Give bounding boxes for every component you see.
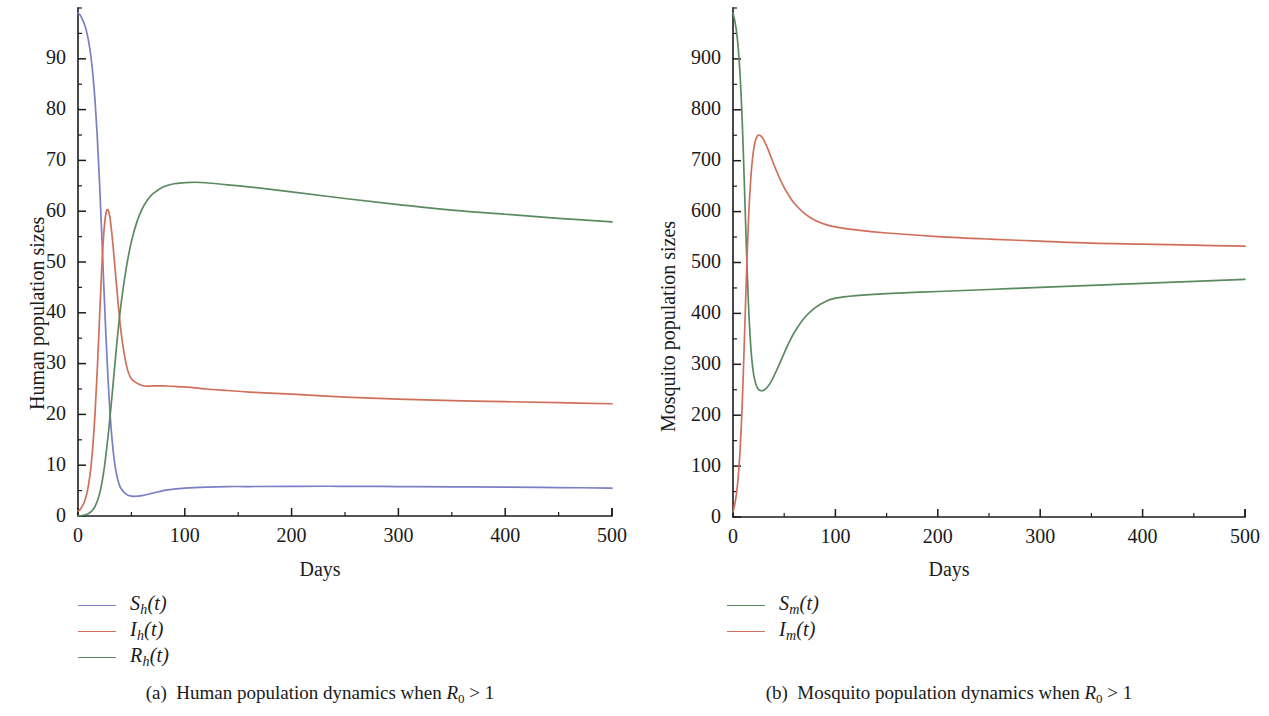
legend-item[interactable]: Sh(t)	[78, 592, 169, 618]
caption-text: Human population dynamics when	[176, 682, 446, 703]
legend-color-swatch	[78, 657, 116, 658]
plot-area-mosquito: 0100200300400500010020030040050060070080…	[629, 0, 1269, 560]
legend-color-swatch	[78, 605, 116, 606]
y-tick-label: 700	[691, 148, 721, 170]
curve-r-ht	[78, 182, 612, 516]
y-tick-label: 500	[691, 250, 721, 272]
legend-label: Sm(t)	[779, 592, 819, 618]
legend-label: Sh(t)	[130, 592, 167, 618]
plot-area-human: 01002003004005000102030405060708090	[0, 0, 640, 560]
y-tick-label: 40	[46, 300, 66, 322]
x-tick-label: 0	[728, 525, 738, 547]
x-axis-label-human: Days	[0, 558, 640, 581]
caption-text: Mosquito population dynamics when	[797, 682, 1084, 703]
legend-human: Sh(t)Ih(t)Rh(t)	[78, 592, 169, 670]
figure-root: 01002003004005000102030405060708090 Days…	[0, 0, 1269, 716]
curve-s-ht	[78, 13, 612, 496]
caption-relation: > 1	[1103, 682, 1133, 703]
legend-color-swatch	[727, 605, 765, 606]
x-tick-label: 0	[73, 524, 83, 546]
y-tick-label: 0	[711, 505, 721, 527]
y-tick-label: 200	[691, 403, 721, 425]
x-tick-label: 500	[597, 524, 627, 546]
x-tick-label: 100	[820, 525, 850, 547]
legend-label: Ih(t)	[130, 618, 164, 644]
caption-relation: > 1	[465, 682, 495, 703]
caption-human: (a) Human population dynamics when R0 > …	[0, 682, 640, 707]
y-tick-label: 20	[46, 402, 66, 424]
legend-mosquito: Sm(t)Im(t)	[727, 592, 819, 644]
y-tick-label: 400	[691, 301, 721, 323]
x-tick-label: 500	[1230, 525, 1260, 547]
curve-i-ht	[78, 209, 612, 510]
y-tick-label: 800	[691, 97, 721, 119]
curve-s-mt	[733, 13, 1245, 391]
x-tick-label: 400	[1128, 525, 1158, 547]
legend-item[interactable]: Im(t)	[727, 618, 819, 644]
y-tick-label: 900	[691, 46, 721, 68]
y-tick-label: 70	[46, 148, 66, 170]
caption-symbol: R	[446, 682, 458, 703]
x-tick-label: 200	[923, 525, 953, 547]
y-tick-label: 90	[46, 46, 66, 68]
x-tick-label: 400	[490, 524, 520, 546]
caption-symbol: R	[1084, 682, 1096, 703]
x-axis-label-mosquito: Days	[629, 558, 1269, 581]
panel-human-dynamics: 01002003004005000102030405060708090 Days…	[0, 0, 640, 716]
y-tick-label: 30	[46, 351, 66, 373]
x-tick-label: 300	[383, 524, 413, 546]
caption-prefix: (a)	[146, 682, 177, 703]
legend-item[interactable]: Ih(t)	[78, 618, 169, 644]
legend-color-swatch	[78, 631, 116, 632]
caption-prefix: (b)	[766, 682, 798, 703]
y-tick-label: 600	[691, 199, 721, 221]
caption-mosquito: (b) Mosquito population dynamics when R0…	[629, 682, 1269, 707]
x-tick-label: 300	[1025, 525, 1055, 547]
y-tick-label: 50	[46, 250, 66, 272]
y-tick-label: 80	[46, 97, 66, 119]
y-tick-label: 60	[46, 199, 66, 221]
legend-label: Rh(t)	[130, 644, 169, 670]
y-tick-label: 300	[691, 352, 721, 374]
y-tick-label: 0	[56, 504, 66, 526]
x-tick-label: 200	[277, 524, 307, 546]
y-axis-label-human: Human population sizes	[26, 217, 49, 410]
legend-item[interactable]: Sm(t)	[727, 592, 819, 618]
legend-label: Im(t)	[779, 618, 816, 644]
panel-mosquito-dynamics: 0100200300400500010020030040050060070080…	[629, 0, 1269, 716]
y-tick-label: 100	[691, 454, 721, 476]
y-axis-label-mosquito: Mosquito population sizes	[657, 221, 680, 432]
x-tick-label: 100	[170, 524, 200, 546]
legend-item[interactable]: Rh(t)	[78, 644, 169, 670]
curve-i-mt	[733, 135, 1245, 512]
legend-color-swatch	[727, 631, 765, 632]
y-tick-label: 10	[46, 453, 66, 475]
